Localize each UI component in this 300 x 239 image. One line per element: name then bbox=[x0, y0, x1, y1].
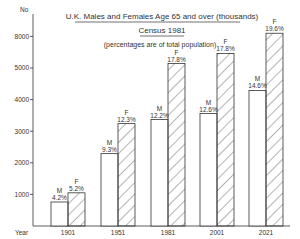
percentage-label: 12.3% bbox=[117, 116, 136, 123]
y-tick-label: 4000 bbox=[15, 96, 30, 103]
x-tick-label: 1901 bbox=[61, 229, 76, 236]
series-label: F bbox=[125, 109, 129, 116]
x-tick-label: 2021 bbox=[259, 229, 274, 236]
bar-group-1901: M4.2%F5.2%1901 bbox=[51, 178, 85, 236]
bar-group-2001: M12.6%F17.8%2001 bbox=[199, 38, 235, 236]
percentage-label: 14.6% bbox=[248, 82, 267, 89]
male-bar-2001 bbox=[200, 114, 217, 226]
bar-group-1981: M12.2%F17.8%1981 bbox=[150, 49, 186, 236]
series-label: M bbox=[57, 187, 62, 194]
x-tick-label: 1981 bbox=[161, 229, 176, 236]
female-bar-2021 bbox=[266, 33, 283, 226]
percentage-label: 9.3% bbox=[102, 146, 117, 153]
male-bar-2021 bbox=[249, 90, 266, 226]
percentage-label: 17.8% bbox=[216, 45, 235, 52]
x-tick-label: 2001 bbox=[210, 229, 225, 236]
percentage-label: 12.2% bbox=[150, 112, 169, 119]
female-bar-2001 bbox=[217, 53, 234, 226]
x-tick-label: 1951 bbox=[111, 229, 126, 236]
series-label: F bbox=[273, 18, 277, 25]
series-label: F bbox=[224, 38, 228, 45]
series-label: M bbox=[107, 139, 112, 146]
percentage-label: 19.6% bbox=[265, 25, 284, 32]
female-bar-1951 bbox=[118, 124, 135, 226]
series-label: M bbox=[206, 99, 211, 106]
female-bar-1981 bbox=[168, 64, 185, 226]
percentage-label: 17.8% bbox=[167, 56, 186, 63]
male-bar-1951 bbox=[101, 154, 118, 226]
bar-chart: U.K. Males and Females Age 65 and over (… bbox=[0, 0, 300, 239]
female-bar-1901 bbox=[68, 193, 85, 226]
series-label: M bbox=[255, 75, 260, 82]
y-axis-label: No bbox=[20, 6, 29, 13]
series-label: F bbox=[175, 49, 179, 56]
series-label: F bbox=[75, 178, 79, 185]
y-axis-ticks: 100020003000400050008000 bbox=[15, 33, 33, 198]
bar-group-2021: M14.6%F19.6%2021 bbox=[248, 18, 284, 236]
series-label: M bbox=[157, 105, 162, 112]
y-tick-label: 2000 bbox=[15, 159, 30, 166]
male-bar-1981 bbox=[151, 120, 168, 226]
x-axis-label: Year bbox=[15, 229, 29, 236]
male-bar-1901 bbox=[51, 202, 68, 226]
chart-note: (percentages are of total population) bbox=[104, 41, 216, 49]
chart-title: U.K. Males and Females Age 65 and over (… bbox=[66, 12, 259, 21]
percentage-label: 12.6% bbox=[199, 106, 218, 113]
y-tick-label: 1000 bbox=[15, 191, 30, 198]
bar-group-1951: M9.3%F12.3%1951 bbox=[101, 109, 136, 236]
y-tick-label: 3000 bbox=[15, 128, 30, 135]
percentage-label: 5.2% bbox=[69, 185, 84, 192]
y-tick-label: 5000 bbox=[15, 64, 30, 71]
chart-subtitle: Census 1981 bbox=[138, 26, 186, 35]
bars: M4.2%F5.2%1901M9.3%F12.3%1951M12.2%F17.8… bbox=[51, 18, 284, 236]
y-tick-label: 8000 bbox=[15, 33, 30, 40]
percentage-label: 4.2% bbox=[52, 194, 67, 201]
